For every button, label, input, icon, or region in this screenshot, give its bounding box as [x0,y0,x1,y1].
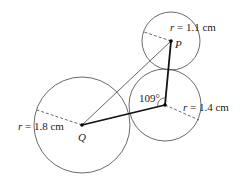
tangent-circles-diagram: r = 1.1 cm P 109° r = 1.4 cm r = 1.8 cm … [0,0,244,185]
segment-middle-p [165,41,171,105]
center-middle [163,103,167,107]
center-p [169,39,173,43]
segment-qp [82,41,171,125]
radius-label-q: r = 1.8 cm [18,120,64,132]
angle-label: 109° [139,92,160,104]
center-q [80,123,84,127]
point-label-q: Q [78,131,86,143]
radius-p-dashed [144,32,171,41]
segment-q-middle [82,105,165,125]
radius-label-p: r = 1.1 cm [170,21,216,33]
point-label-p: P [174,38,182,50]
radius-label-middle: r = 1.4 cm [183,101,229,113]
